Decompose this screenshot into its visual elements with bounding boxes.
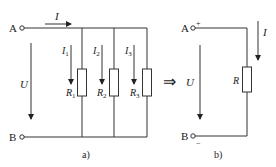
caption-b: b) bbox=[214, 149, 222, 161]
label-a: A bbox=[9, 22, 17, 34]
label-u: U bbox=[20, 78, 29, 90]
circuit-diagram: A B I U I1 I2 I3 R1 R2 R3 a) ⇒ A + B − I… bbox=[0, 0, 276, 167]
resistor-r1 bbox=[78, 69, 87, 96]
label-i1: I1 bbox=[61, 45, 69, 58]
label-u-b: U bbox=[186, 76, 195, 88]
caption-a: a) bbox=[82, 149, 90, 161]
resistor-r2 bbox=[110, 69, 119, 96]
label-b-b: B bbox=[181, 130, 188, 142]
resistor-r3 bbox=[143, 69, 152, 96]
equivalence-arrow-icon: ⇒ bbox=[163, 73, 176, 90]
labels-a: A B I U I1 I2 I3 R1 R2 R3 a) bbox=[9, 10, 140, 161]
equivalent-circuit bbox=[191, 21, 258, 138]
resistor-r bbox=[243, 67, 252, 92]
label-i3: I3 bbox=[124, 45, 132, 58]
label-r2: R2 bbox=[96, 87, 107, 100]
label-a-b: A bbox=[181, 22, 189, 34]
terminal-b bbox=[20, 135, 24, 139]
terminal-a bbox=[20, 26, 24, 30]
terminal-b-b bbox=[191, 134, 195, 138]
minus-sign: − bbox=[196, 139, 201, 148]
label-r: R bbox=[232, 75, 239, 86]
terminal-a-b bbox=[191, 26, 195, 30]
label-r1: R1 bbox=[65, 87, 76, 100]
parallel-circuit bbox=[20, 24, 152, 139]
label-i2: I2 bbox=[92, 45, 100, 58]
labels-b: A + B − I U R b) bbox=[181, 19, 268, 161]
plus-sign: + bbox=[196, 19, 201, 28]
label-r3: R3 bbox=[129, 87, 140, 100]
label-b: B bbox=[9, 131, 16, 143]
label-i: I bbox=[54, 10, 60, 22]
label-i-b: I bbox=[262, 26, 268, 38]
